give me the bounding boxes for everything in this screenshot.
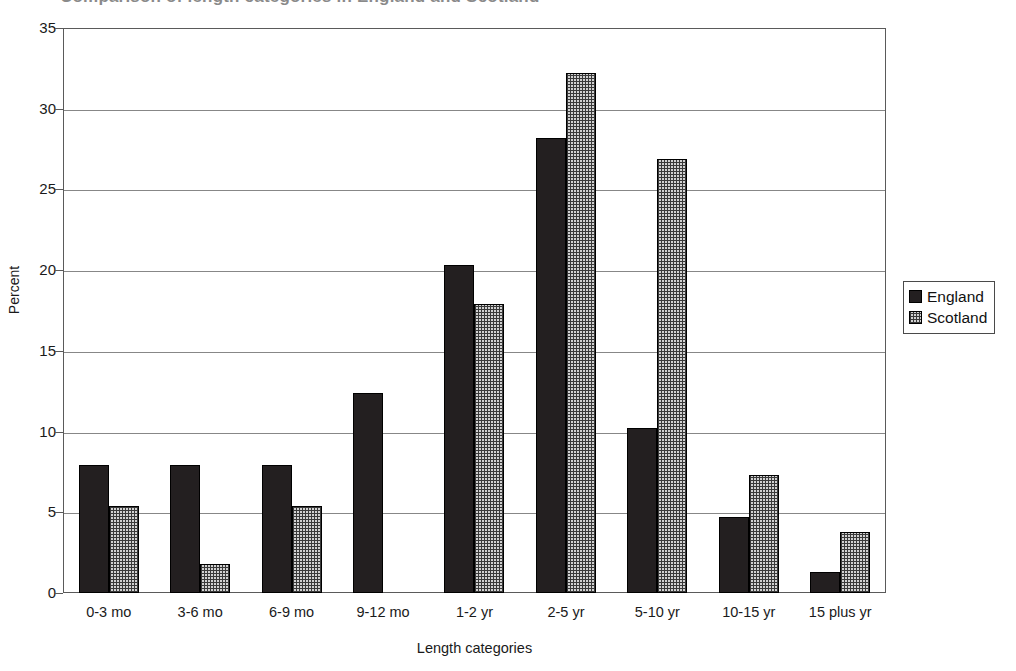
gridline xyxy=(64,190,885,191)
chart-title: Comparison of length categories in Engla… xyxy=(60,0,760,5)
x-tick-label: 3-6 mo xyxy=(154,604,245,620)
x-tick-label: 0-3 mo xyxy=(63,604,154,620)
y-tick-mark xyxy=(55,270,63,271)
x-tick-label: 5-10 yr xyxy=(612,604,703,620)
y-tick-mark xyxy=(55,28,63,29)
plot-area xyxy=(63,28,886,593)
gridline xyxy=(64,271,885,272)
y-tick-label: 0 xyxy=(22,584,56,601)
gridline xyxy=(64,433,885,434)
y-tick-label: 20 xyxy=(22,261,56,278)
x-axis-title: Length categories xyxy=(63,640,886,656)
y-tick-mark xyxy=(55,512,63,513)
gridline xyxy=(64,110,885,111)
y-tick-label: 10 xyxy=(22,423,56,440)
legend-label-scotland: Scotland xyxy=(927,310,987,326)
y-tick-mark xyxy=(55,432,63,433)
y-tick-label: 30 xyxy=(22,100,56,117)
chart-legend: England Scotland xyxy=(903,281,995,334)
y-axis-title: Percent xyxy=(6,230,22,350)
x-tick-label: 15 plus yr xyxy=(795,604,886,620)
x-tick-label: 1-2 yr xyxy=(429,604,520,620)
x-tick-label: 6-9 mo xyxy=(246,604,337,620)
x-tick-label: 9-12 mo xyxy=(337,604,428,620)
legend-swatch-scotland-icon xyxy=(909,311,922,324)
legend-swatch-england-icon xyxy=(909,290,922,303)
gridline xyxy=(64,352,885,353)
y-tick-mark xyxy=(55,189,63,190)
legend-item-england: England xyxy=(909,286,987,307)
x-axis-tick-labels: 0-3 mo3-6 mo6-9 mo9-12 mo1-2 yr2-5 yr5-1… xyxy=(63,604,886,628)
legend-label-england: England xyxy=(927,289,984,305)
y-tick-mark xyxy=(55,351,63,352)
legend-item-scotland: Scotland xyxy=(909,307,987,328)
y-tick-label: 15 xyxy=(22,342,56,359)
x-tick-label: 10-15 yr xyxy=(703,604,794,620)
y-tick-label: 25 xyxy=(22,180,56,197)
y-tick-label: 5 xyxy=(22,503,56,520)
y-tick-mark xyxy=(55,109,63,110)
y-tick-mark xyxy=(55,593,63,594)
x-tick-label: 2-5 yr xyxy=(520,604,611,620)
y-tick-label: 35 xyxy=(22,19,56,36)
bar-chart: Comparison of length categories in Engla… xyxy=(0,0,1016,671)
gridline xyxy=(64,513,885,514)
